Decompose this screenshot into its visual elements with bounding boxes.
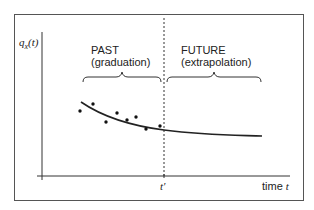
data-point [125,118,128,121]
y-axis-label: qx(t) [19,36,38,53]
fitted-curve [81,102,262,136]
future-subtitle: (extrapolation) [181,56,251,68]
past-brace [83,72,161,82]
future-title: FUTURE [181,44,251,56]
future-brace [167,72,261,82]
data-point [134,115,137,118]
data-point [158,124,161,127]
observed-data-points [78,102,161,130]
data-point [144,127,147,130]
data-point [78,109,81,112]
past-subtitle: (graduation) [91,56,150,68]
past-title: PAST [91,44,150,56]
t-prime-label: t′ [160,180,165,192]
x-label-var: t [286,180,289,192]
data-point [115,111,118,114]
past-region-label: PAST (graduation) [91,44,150,68]
data-point [91,102,94,105]
future-region-label: FUTURE (extrapolation) [181,44,251,68]
diagram-canvas [0,0,314,210]
x-label-text: time [262,180,283,192]
data-point [104,120,107,123]
y-label-arg: (t) [28,36,38,48]
x-axis-label: time t [262,180,289,192]
